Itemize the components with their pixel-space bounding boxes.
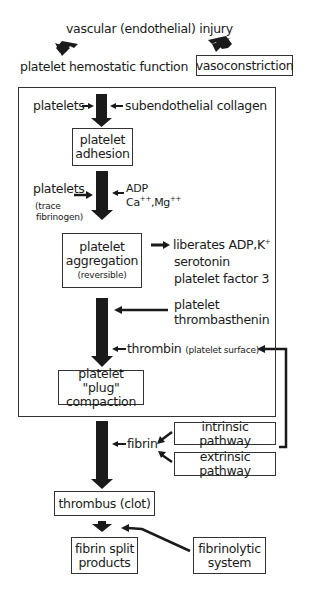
label-fibrinogen: fibrinogen) xyxy=(36,212,83,223)
box-extrinsic-pathway: extrinsic pathway xyxy=(174,452,276,476)
label-liberates: liberates ADP,K+ xyxy=(173,238,270,252)
aggregation-line2: aggregation xyxy=(66,254,138,268)
arrow-to-split-products xyxy=(92,524,112,532)
fibrinolytic-line1: fibrinolytic xyxy=(198,542,261,556)
label-platelets-aggregation: platelets xyxy=(33,182,85,196)
extrinsic-label: extrinsic pathway xyxy=(175,450,275,478)
split-line1: fibrin split xyxy=(75,542,134,556)
aggregation-note: (reversible) xyxy=(77,270,126,281)
adhesion-line1: platelet xyxy=(80,133,125,147)
fibrinolytic-line2: system xyxy=(208,556,251,570)
platelet-hemostasis-frame xyxy=(18,87,276,417)
label-thrombasthenin-2: thrombasthenin xyxy=(174,313,269,327)
thrombus-label: thrombus (clot) xyxy=(58,497,150,511)
label-serotonin: serotonin xyxy=(174,255,230,269)
vasoconstriction-label: vasoconstriction xyxy=(196,59,294,73)
label-ca-mg: Ca++,Mg++ xyxy=(126,196,181,210)
box-platelet-adhesion: platelet adhesion xyxy=(72,128,133,166)
plug-line1: platelet "plug" xyxy=(59,367,143,395)
label-trace: (trace xyxy=(35,201,61,212)
label-platelet-factor-3: platelet factor 3 xyxy=(174,272,269,286)
split-line2: products xyxy=(78,556,130,570)
title-vascular-injury: vascular (endothelial) injury xyxy=(66,22,233,36)
label-subendothelial-collagen: subendothelial collagen xyxy=(125,99,267,113)
label-platelets-adhesion: platelets xyxy=(33,99,85,113)
box-intrinsic-pathway: intrinsic pathway xyxy=(174,422,276,445)
label-platelet-hemostatic-function: platelet hemostatic function xyxy=(20,60,188,74)
label-fibrin: fibrin xyxy=(127,437,158,451)
plug-line2: compaction xyxy=(66,395,136,409)
label-adp: ADP xyxy=(126,182,148,196)
box-fibrin-split-products: fibrin split products xyxy=(71,537,138,574)
label-thrombasthenin-1: platelet xyxy=(174,298,219,312)
box-platelet-aggregation: platelet aggregation (reversible) xyxy=(62,233,142,288)
box-fibrinolytic-system: fibrinolytic system xyxy=(193,537,266,574)
box-thrombus: thrombus (clot) xyxy=(54,491,155,516)
box-plug-compaction: platelet "plug" compaction xyxy=(58,370,144,405)
label-thrombin: thrombin (platelet surface) xyxy=(127,342,259,356)
aggregation-line1: platelet xyxy=(79,240,124,254)
intrinsic-label: intrinsic pathway xyxy=(175,420,275,448)
box-vasoconstriction: vasoconstriction xyxy=(196,55,293,76)
adhesion-line2: adhesion xyxy=(75,147,129,161)
arrow-shaft-thrombus xyxy=(96,421,108,481)
